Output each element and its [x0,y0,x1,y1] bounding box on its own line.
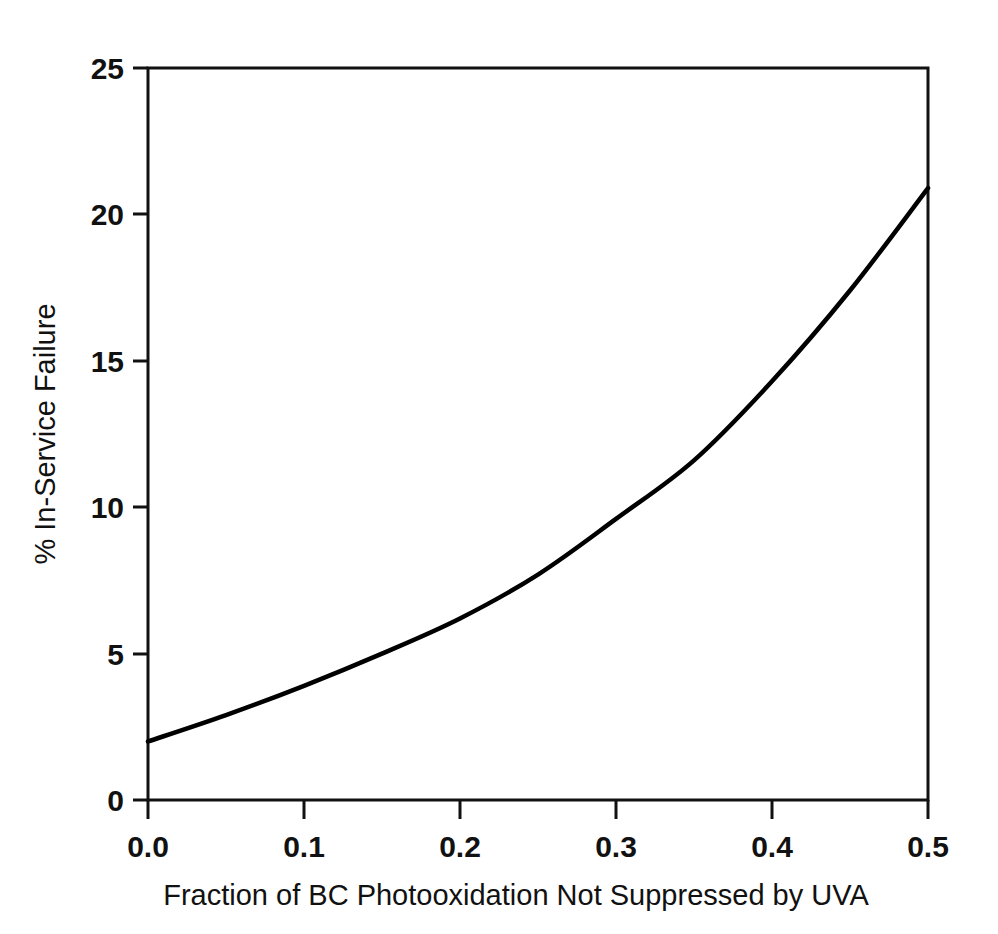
chart-figure: 0 5 10 15 20 25 0.0 0.1 0.2 0.3 0.4 0.5 [0,0,998,934]
y-tick-label-20: 20 [91,198,124,231]
x-tick-label-0p3: 0.3 [595,830,637,863]
line-chart: 0 5 10 15 20 25 0.0 0.1 0.2 0.3 0.4 0.5 [0,0,998,934]
x-tick-label-0p4: 0.4 [751,830,793,863]
x-axis-ticks [148,800,928,819]
y-tick-label-10: 10 [91,491,124,524]
data-series-line [148,188,928,741]
x-tick-label-0p2: 0.2 [439,830,481,863]
x-tick-label-0p0: 0.0 [127,830,169,863]
y-axis-ticks [133,68,148,800]
plot-frame [148,68,928,800]
y-axis-title: % In-Service Failure [29,303,61,564]
y-axis-tick-labels: 0 5 10 15 20 25 [91,52,124,817]
x-tick-label-0p5: 0.5 [907,830,949,863]
y-tick-label-0: 0 [107,784,124,817]
x-tick-label-0p1: 0.1 [283,830,325,863]
x-axis-tick-labels: 0.0 0.1 0.2 0.3 0.4 0.5 [127,830,949,863]
x-axis-title: Fraction of BC Photooxidation Not Suppre… [163,879,869,911]
y-tick-label-5: 5 [107,638,124,671]
y-tick-label-15: 15 [91,345,124,378]
y-tick-label-25: 25 [91,52,124,85]
